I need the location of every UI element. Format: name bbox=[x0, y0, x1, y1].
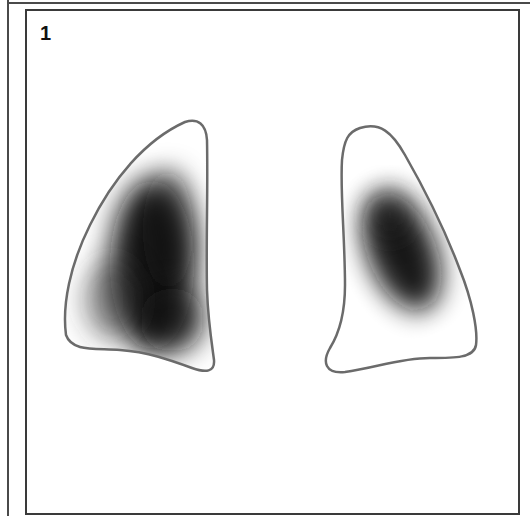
left-lung-density bbox=[84, 170, 204, 352]
lung-scan-figure bbox=[0, 0, 530, 516]
right-lung-density bbox=[347, 182, 456, 322]
